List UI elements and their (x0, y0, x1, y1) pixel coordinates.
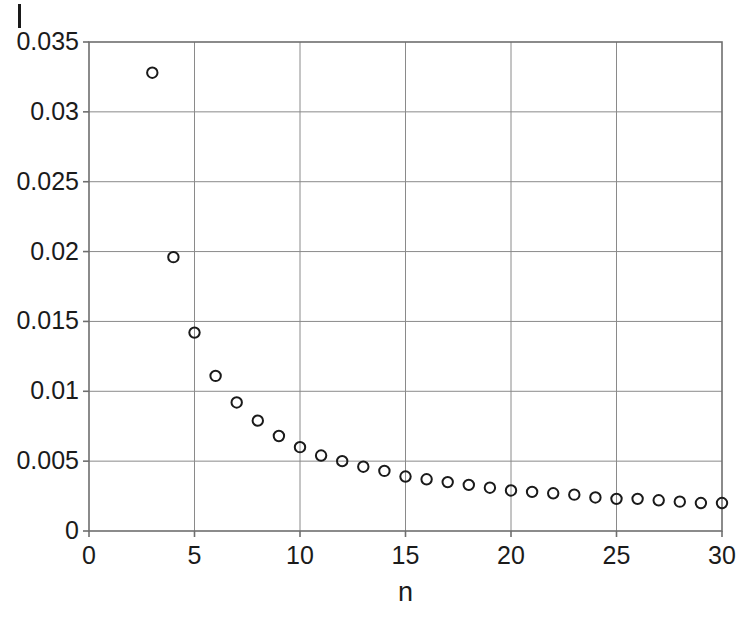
data-markers-group (147, 68, 727, 509)
data-point-marker (654, 495, 664, 505)
data-point-marker (485, 482, 495, 492)
scatter-plot-figure: 00.0050.010.0150.020.0250.030.035 051015… (0, 0, 745, 622)
gridlines-group (89, 42, 722, 531)
x-tick-label: 0 (59, 543, 119, 568)
data-point-marker (632, 494, 642, 504)
x-tick-label: 15 (376, 543, 436, 568)
data-point-marker (696, 498, 706, 508)
y-tick-label: 0 (65, 518, 79, 543)
x-axis-title: n (89, 579, 722, 606)
data-point-marker (232, 397, 242, 407)
data-point-marker (147, 68, 157, 78)
y-tick-label: 0.01 (30, 378, 79, 403)
y-tick-label: 0.035 (16, 29, 79, 54)
data-point-marker (548, 488, 558, 498)
data-point-marker (443, 477, 453, 487)
data-point-marker (253, 415, 263, 425)
y-tick-label: 0.02 (30, 239, 79, 264)
data-point-marker (274, 431, 284, 441)
data-point-marker (569, 489, 579, 499)
data-point-marker (464, 480, 474, 490)
data-point-marker (168, 252, 178, 262)
data-point-marker (527, 487, 537, 497)
data-point-marker (675, 496, 685, 506)
data-point-marker (421, 474, 431, 484)
data-point-marker (379, 466, 389, 476)
y-tick-label: 0.015 (16, 308, 79, 333)
x-tick-label: 20 (481, 543, 541, 568)
y-tick-label: 0.025 (16, 169, 79, 194)
tick-marks-group (83, 42, 722, 537)
data-point-marker (358, 462, 368, 472)
y-tick-label: 0.03 (30, 99, 79, 124)
plot-canvas (0, 0, 745, 622)
data-point-marker (590, 492, 600, 502)
x-tick-label: 25 (587, 543, 647, 568)
data-point-marker (210, 371, 220, 381)
x-tick-label: 5 (165, 543, 225, 568)
x-tick-label: 10 (270, 543, 330, 568)
data-point-marker (316, 450, 326, 460)
y-tick-label: 0.005 (16, 448, 79, 473)
x-tick-label: 30 (692, 543, 745, 568)
